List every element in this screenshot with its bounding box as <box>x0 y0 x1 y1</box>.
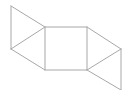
right-diagonal-edge <box>87 49 121 70</box>
center-square <box>45 27 87 70</box>
right-bottom-edge <box>87 70 121 90</box>
right-flaps <box>87 27 121 90</box>
right-top-edge <box>87 27 121 49</box>
left-top-edge <box>11 6 45 27</box>
left-bottom-edge <box>11 49 45 70</box>
left-diagonal-edge <box>11 27 45 49</box>
square-face <box>45 27 87 70</box>
left-flaps <box>11 6 45 70</box>
prism-net-diagram <box>0 0 132 90</box>
